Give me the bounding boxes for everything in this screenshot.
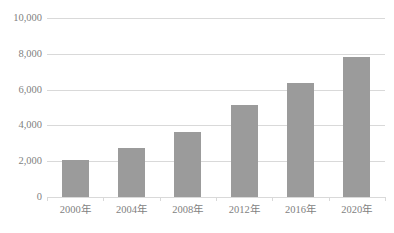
bar bbox=[231, 105, 258, 197]
y-axis-tick-label: 2,000 bbox=[18, 156, 42, 167]
x-axis-tick-label: 2012年 bbox=[216, 203, 272, 217]
x-axis-tick-mark bbox=[47, 197, 48, 201]
x-axis-labels: 2000年2004年2008年2012年2016年2020年 bbox=[47, 203, 385, 227]
x-axis-tick-mark bbox=[329, 197, 330, 201]
x-axis-tick-label: 2008年 bbox=[160, 203, 216, 217]
x-axis-tick-label: 2004年 bbox=[103, 203, 159, 217]
y-axis-tick-label: 0 bbox=[37, 192, 42, 203]
y-axis-tick-label: 10,000 bbox=[13, 13, 42, 24]
x-axis-tick-mark bbox=[216, 197, 217, 201]
x-axis-tick-label: 2020年 bbox=[329, 203, 385, 217]
x-axis-tick-mark bbox=[272, 197, 273, 201]
y-axis-labels: 10,0008,0006,0004,0002,0000 bbox=[0, 0, 42, 233]
x-axis-tick-mark bbox=[385, 197, 386, 201]
bar bbox=[62, 160, 89, 197]
x-axis-tick-mark bbox=[103, 197, 104, 201]
bar bbox=[287, 83, 314, 197]
bars-layer bbox=[47, 18, 385, 197]
bar bbox=[343, 57, 370, 198]
y-axis-tick-label: 6,000 bbox=[18, 85, 42, 96]
bar bbox=[118, 148, 145, 197]
bar-chart: 10,0008,0006,0004,0002,0000 2000年2004年20… bbox=[0, 0, 394, 233]
y-axis-tick-label: 8,000 bbox=[18, 49, 42, 60]
y-axis-tick-label: 4,000 bbox=[18, 120, 42, 131]
x-axis-tick-label: 2000年 bbox=[47, 203, 103, 217]
x-axis-tick-mark bbox=[160, 197, 161, 201]
bar bbox=[174, 132, 201, 197]
x-axis-tick-label: 2016年 bbox=[272, 203, 328, 217]
plot-area bbox=[47, 18, 385, 197]
